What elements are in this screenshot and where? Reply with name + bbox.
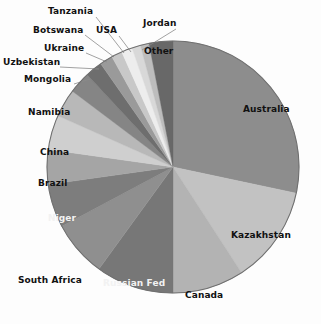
slice-label-other: Other [144, 46, 173, 56]
pie-slices-group [47, 41, 299, 293]
slice-label-tanzania: Tanzania [48, 6, 93, 16]
slice-label-tanzania-leader-line [96, 17, 124, 53]
slice-label-kazakhstan: Kazakhstan [231, 230, 291, 240]
slice-label-uzbekistan-leader-line [60, 67, 99, 69]
pie-chart: TanzaniaJordanBotswanaUSAUkraineUzbekist… [0, 0, 321, 324]
slice-label-australia: Australia [243, 104, 290, 114]
slice-label-usa-leader-line [119, 36, 131, 52]
slice-label-uzbekistan: Uzbekistan [3, 57, 60, 67]
slice-label-niger: Niger [48, 213, 76, 223]
slice-label-botswana: Botswana [33, 25, 83, 35]
slice-label-china: China [40, 147, 69, 157]
slice-label-south-africa: South Africa [18, 275, 82, 285]
slice-label-brazil: Brazil [38, 178, 67, 188]
slice-label-ukraine: Ukraine [44, 43, 84, 53]
slice-label-jordan: Jordan [143, 18, 177, 28]
pie-slice-australia[interactable] [173, 41, 299, 193]
slice-label-namibia: Namibia [28, 107, 70, 117]
slice-label-botswana-leader-line [85, 35, 114, 57]
slice-label-usa: USA [96, 25, 117, 35]
slice-label-russian-fed: Russian Fed [103, 278, 165, 288]
slice-label-canada: Canada [185, 290, 223, 300]
slice-label-ukraine-leader-line [86, 53, 107, 62]
slice-label-mongolia: Mongolia [24, 74, 71, 84]
